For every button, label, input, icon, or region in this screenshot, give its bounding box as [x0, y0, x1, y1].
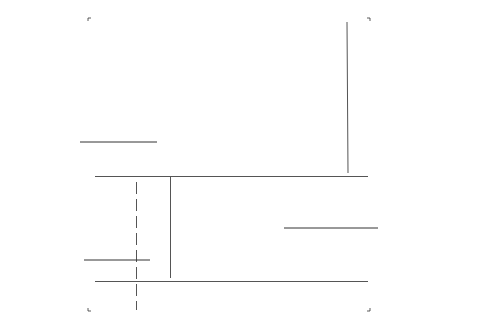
upper-right-vertical-line [347, 22, 348, 173]
scatter-diagram [0, 0, 501, 334]
gate-lines [95, 22, 368, 310]
clipped-caption-fragment [110, 328, 310, 334]
corner-ticks [88, 18, 370, 311]
leader-lines [80, 142, 378, 260]
